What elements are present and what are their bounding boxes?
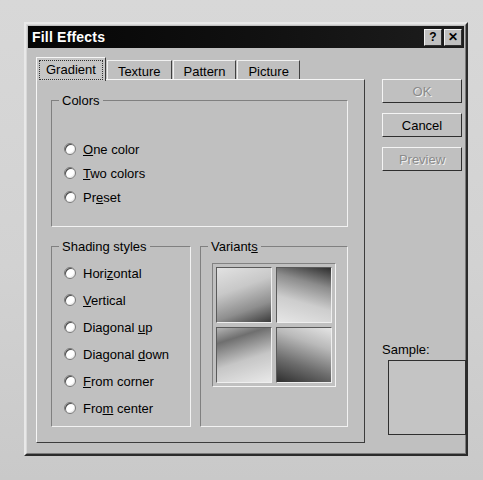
ok-button[interactable]: OK — [382, 79, 462, 103]
variants-swatch-grid — [212, 263, 336, 387]
radio-horizontal[interactable]: Horizontal — [64, 265, 142, 281]
tab-focus-ring — [39, 60, 103, 80]
shading-group-label: Shading styles — [59, 239, 150, 254]
fill-effects-dialog: Fill Effects ? ✕ Gradient Texture Patter… — [24, 22, 468, 456]
tab-picture[interactable]: Picture — [237, 60, 299, 81]
radio-icon — [64, 294, 76, 306]
radio-icon — [64, 143, 76, 155]
radio-icon — [64, 375, 76, 387]
cancel-button[interactable]: Cancel — [382, 113, 462, 137]
radio-diagonal-up-label: Diagonal up — [83, 321, 152, 334]
radio-diagonal-up[interactable]: Diagonal up — [64, 319, 152, 335]
radio-preset[interactable]: Preset — [64, 189, 121, 205]
radio-preset-label: Preset — [83, 191, 121, 204]
radio-horizontal-label: Horizontal — [83, 267, 142, 280]
radio-icon — [64, 267, 76, 279]
radio-icon — [64, 167, 76, 179]
variant-bottom-right[interactable] — [276, 327, 332, 383]
variants-groupbox: Variants — [200, 246, 348, 427]
title-bar[interactable]: Fill Effects ? ✕ — [28, 26, 464, 48]
help-icon[interactable]: ? — [424, 29, 442, 46]
radio-diagonal-down-label: Diagonal down — [83, 348, 169, 361]
tab-pattern[interactable]: Pattern — [173, 60, 237, 81]
variant-bottom-left[interactable] — [216, 327, 272, 383]
colors-group-label: Colors — [59, 93, 103, 108]
colors-groupbox: Colors One color Two colors Preset — [51, 100, 348, 227]
shading-styles-groupbox: Shading styles Horizontal Vertical Diago… — [51, 246, 191, 427]
radio-icon — [64, 191, 76, 203]
radio-from-center[interactable]: From center — [64, 400, 153, 416]
tab-pattern-label: Pattern — [184, 64, 226, 79]
variants-group-label: Variants — [208, 239, 261, 254]
gradient-tab-panel: Colors One color Two colors Preset Shadi… — [36, 79, 365, 443]
variant-top-right[interactable] — [276, 267, 332, 323]
sample-label: Sample: — [382, 342, 430, 357]
radio-icon — [64, 321, 76, 333]
radio-vertical-label: Vertical — [83, 294, 126, 307]
variant-top-left[interactable] — [216, 267, 272, 323]
close-icon[interactable]: ✕ — [444, 29, 462, 46]
sample-preview-box — [388, 360, 466, 435]
tab-strip: Gradient Texture Pattern Picture — [36, 57, 301, 81]
radio-icon — [64, 348, 76, 360]
radio-two-colors-label: Two colors — [83, 167, 145, 180]
radio-one-color-label: One color — [83, 143, 139, 156]
tab-gradient[interactable]: Gradient — [36, 57, 106, 81]
radio-from-corner[interactable]: From corner — [64, 373, 154, 389]
tab-texture-label: Texture — [118, 64, 161, 79]
window-title: Fill Effects — [32, 29, 422, 45]
radio-diagonal-down[interactable]: Diagonal down — [64, 346, 169, 362]
tab-texture[interactable]: Texture — [107, 60, 172, 81]
radio-from-corner-label: From corner — [83, 375, 154, 388]
radio-one-color[interactable]: One color — [64, 141, 139, 157]
radio-two-colors[interactable]: Two colors — [64, 165, 145, 181]
preview-button[interactable]: Preview — [382, 147, 462, 171]
tab-picture-label: Picture — [248, 64, 288, 79]
radio-icon — [64, 402, 76, 414]
radio-vertical[interactable]: Vertical — [64, 292, 126, 308]
radio-from-center-label: From center — [83, 402, 153, 415]
